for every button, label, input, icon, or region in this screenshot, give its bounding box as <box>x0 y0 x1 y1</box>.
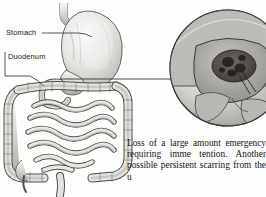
ulcer-magnification-inset <box>168 10 266 130</box>
figure-container: Stomach Duodenum Loss of a large amount … <box>0 0 266 197</box>
label-stomach: Stomach <box>6 29 36 37</box>
figure-caption: Loss of a large amount emergency requiri… <box>127 138 266 194</box>
label-duodenum: Duodenum <box>8 53 46 61</box>
caption-text: Loss of a large amount emergency requiri… <box>127 138 266 183</box>
